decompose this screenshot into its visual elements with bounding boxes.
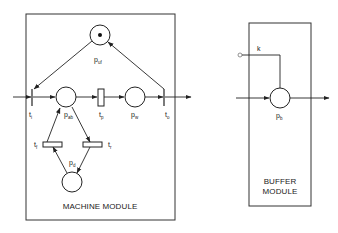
transition-t-i: ti — [29, 89, 32, 120]
svg-text:to: to — [165, 111, 170, 120]
capacity-label: k — [257, 45, 261, 52]
machine-module-title: MACHINE MODULE — [63, 202, 138, 211]
svg-text:pab: pab — [64, 111, 73, 120]
svg-text:tf: tf — [34, 141, 38, 150]
svg-text:tp: tp — [99, 111, 104, 120]
arc-to-to-puf — [108, 42, 164, 89]
svg-text:ti: ti — [29, 111, 32, 120]
arc-pd-to-tf — [53, 147, 67, 173]
transition-t-p: tp — [98, 89, 104, 120]
capacity-connector-icon — [238, 53, 242, 57]
transition-t-r: tr — [83, 141, 112, 150]
place-p-d: pd — [62, 159, 82, 192]
arc-pab-to-tr — [72, 107, 90, 142]
svg-text:pb: pb — [276, 112, 283, 121]
buffer-module: k pb BUFFER MODULE — [236, 23, 329, 206]
buffer-module-title-line2: MODULE — [263, 187, 298, 196]
transition-t-o: to — [164, 89, 170, 120]
place-p-uf: puf — [90, 25, 110, 65]
petri-net-diagram: puf ti pab tp pw — [0, 0, 338, 233]
svg-text:puf: puf — [94, 56, 102, 65]
machine-module: puf ti pab tp pw — [13, 14, 191, 220]
place-p-w: pw — [125, 87, 145, 120]
arc-puf-to-ti — [34, 41, 92, 89]
place-p-b: pb — [270, 88, 290, 121]
transition-t-f: tf — [34, 141, 62, 150]
svg-text:tr: tr — [108, 141, 112, 150]
token-icon — [98, 33, 102, 37]
arc-tr-to-pd — [77, 147, 90, 173]
svg-text:pw: pw — [131, 111, 139, 120]
capacity-arc — [242, 55, 280, 88]
buffer-module-title-line1: BUFFER — [264, 177, 297, 186]
place-p-ab: pab — [56, 87, 76, 120]
arc-tf-to-pab — [47, 108, 60, 142]
svg-text:pd: pd — [69, 159, 76, 168]
